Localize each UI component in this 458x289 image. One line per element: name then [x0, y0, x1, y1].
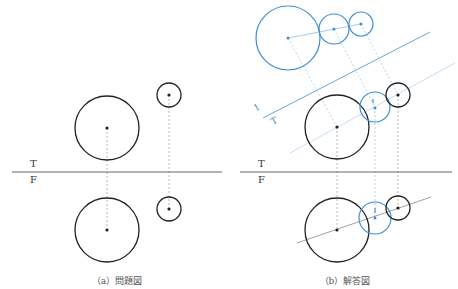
center-point	[374, 107, 377, 110]
caption-a: （a）問題図	[92, 276, 142, 286]
center-point	[105, 126, 108, 129]
label-f: F	[30, 174, 37, 185]
center-point	[167, 207, 170, 210]
panel-b: 1 T T F （b）解	[240, 6, 455, 286]
center-point	[335, 125, 338, 128]
label-t: T	[258, 158, 265, 169]
diagram-canvas: T F （a）問題図 1 T T F	[0, 0, 458, 289]
center-point	[360, 23, 363, 26]
center-point	[396, 206, 399, 209]
caption-b: （b）解答図	[320, 275, 371, 286]
center-point	[335, 228, 338, 231]
center-point	[374, 217, 377, 220]
panel-a: T F （a）問題図	[12, 83, 222, 286]
center-point	[167, 93, 170, 96]
center-point	[333, 28, 336, 31]
aux-label-1: 1	[252, 102, 262, 114]
aux-label-t: T	[269, 115, 279, 127]
center-point	[287, 37, 290, 40]
front-center-line	[297, 197, 431, 243]
top-center-line	[290, 63, 455, 153]
aux-center-line	[288, 24, 361, 38]
aux-projector-large	[288, 38, 337, 127]
label-t: T	[30, 158, 37, 169]
center-point	[105, 228, 108, 231]
center-point	[396, 93, 399, 96]
label-f: F	[258, 174, 265, 185]
